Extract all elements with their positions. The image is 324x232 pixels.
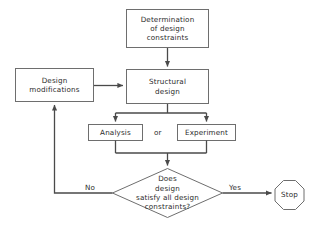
node-structural-design-shape bbox=[127, 70, 209, 104]
flowchart-graphics bbox=[0, 0, 324, 232]
node-experiment-shape bbox=[178, 125, 236, 141]
node-design-modifications-shape bbox=[16, 69, 94, 102]
node-decision-shape bbox=[113, 169, 223, 218]
edge-decision-no-to-modifications bbox=[55, 105, 113, 193]
node-determination-shape bbox=[127, 10, 209, 48]
node-analysis-shape bbox=[89, 125, 143, 141]
flowchart-canvas: Determination of design constraints Stru… bbox=[0, 0, 324, 232]
edge-label-no: No bbox=[85, 183, 95, 192]
edge-label-or: or bbox=[154, 128, 162, 137]
edge-label-yes: Yes bbox=[229, 183, 241, 192]
node-stop-shape bbox=[275, 181, 304, 210]
